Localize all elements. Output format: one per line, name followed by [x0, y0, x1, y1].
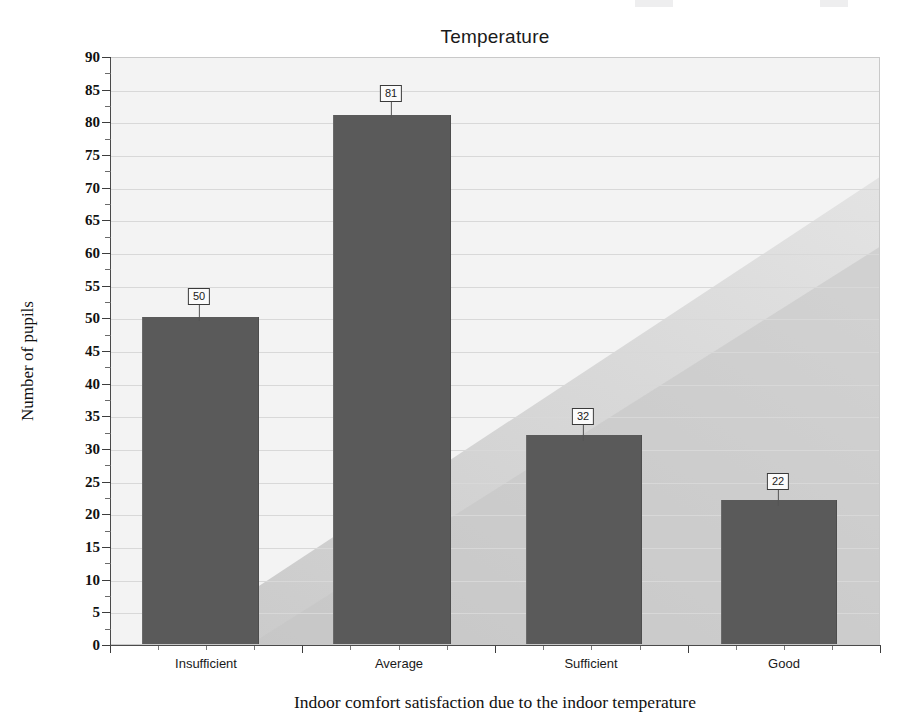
value-label: 32: [572, 408, 594, 425]
y-tick-label: 20: [58, 506, 100, 523]
callout-stem: [199, 305, 200, 321]
scan-artifact: [820, 0, 848, 7]
y-tick-minor: [105, 596, 111, 597]
y-tick: [102, 416, 111, 417]
y-tick-minor: [105, 563, 111, 564]
x-tick: [110, 646, 111, 653]
x-tick-minor: [254, 646, 255, 650]
y-tick-label: 75: [58, 147, 100, 164]
y-tick-minor: [105, 367, 111, 368]
x-tick-minor: [399, 646, 400, 650]
y-tick-minor: [105, 139, 111, 140]
y-tick: [102, 188, 111, 189]
value-label: 22: [767, 473, 789, 490]
y-tick-label: 15: [58, 539, 100, 556]
y-tick-minor: [105, 433, 111, 434]
y-tick: [102, 253, 111, 254]
y-tick-label: 55: [58, 277, 100, 294]
y-tick: [102, 384, 111, 385]
y-tick-minor: [105, 531, 111, 532]
callout-stem: [391, 102, 392, 118]
plot-area: [110, 57, 880, 645]
x-tick-minor: [543, 646, 544, 650]
x-tick-minor: [158, 646, 159, 650]
x-tick-label-sufficient: Sufficient: [564, 656, 617, 671]
y-tick: [102, 547, 111, 548]
y-tick-label: 40: [58, 375, 100, 392]
bar-good[interactable]: [721, 500, 837, 644]
y-tick: [102, 514, 111, 515]
y-tick-minor: [105, 335, 111, 336]
x-tick-label-good: Good: [768, 656, 800, 671]
x-tick-minor: [784, 646, 785, 650]
y-tick-minor: [105, 171, 111, 172]
y-tick-label: 90: [58, 49, 100, 66]
y-tick-label: 65: [58, 212, 100, 229]
value-callout-average: 81: [380, 85, 402, 118]
bar-chart: Temperature: [0, 0, 915, 727]
value-callout-sufficient: 32: [572, 408, 594, 441]
y-tick-minor: [105, 204, 111, 205]
y-tick-minor: [105, 629, 111, 630]
x-axis-title: Indoor comfort satisfaction due to the i…: [110, 692, 880, 713]
y-tick-label: 70: [58, 179, 100, 196]
y-tick-minor: [105, 269, 111, 270]
y-tick-label: 0: [58, 637, 100, 654]
y-tick-label: 35: [58, 408, 100, 425]
x-tick-minor: [640, 646, 641, 650]
y-tick: [102, 122, 111, 123]
x-tick: [495, 646, 496, 653]
y-tick-label: 80: [58, 114, 100, 131]
y-tick: [102, 351, 111, 352]
chart-title: Temperature: [110, 26, 880, 48]
bars-layer: [111, 58, 879, 644]
value-label: 50: [188, 288, 210, 305]
y-tick-minor: [105, 106, 111, 107]
x-tick-minor: [447, 646, 448, 650]
callout-stem: [778, 490, 779, 506]
y-tick: [102, 612, 111, 613]
scan-artifact: [635, 0, 673, 7]
y-tick: [102, 580, 111, 581]
x-tick: [302, 646, 303, 653]
y-tick: [102, 286, 111, 287]
y-tick: [102, 155, 111, 156]
x-tick: [688, 646, 689, 653]
y-tick: [102, 482, 111, 483]
y-tick-label: 25: [58, 473, 100, 490]
y-tick-label: 5: [58, 604, 100, 621]
y-tick-minor: [105, 302, 111, 303]
y-tick: [102, 220, 111, 221]
x-tick-minor: [832, 646, 833, 650]
y-tick-minor: [105, 400, 111, 401]
bar-average[interactable]: [333, 115, 451, 644]
y-tick: [102, 318, 111, 319]
y-axis-title: Number of pupils: [18, 261, 38, 461]
y-tick-minor: [105, 73, 111, 74]
callout-stem: [583, 425, 584, 441]
x-tick-label-insufficient: Insufficient: [175, 656, 237, 671]
bar-insufficient[interactable]: [142, 317, 259, 644]
x-tick-label-average: Average: [375, 656, 423, 671]
y-tick-label: 45: [58, 343, 100, 360]
y-tick: [102, 449, 111, 450]
y-tick-minor: [105, 498, 111, 499]
y-tick: [102, 57, 111, 58]
y-tick-label: 85: [58, 81, 100, 98]
y-tick-label: 10: [58, 571, 100, 588]
x-tick-minor: [736, 646, 737, 650]
x-tick-minor: [206, 646, 207, 650]
y-tick-minor: [105, 237, 111, 238]
y-tick-label: 50: [58, 310, 100, 327]
y-tick-labels: 90 85 80 75 70 65 60 55 50 45 40 35 30 2…: [52, 0, 100, 727]
bar-sufficient[interactable]: [526, 435, 642, 644]
y-tick-label: 60: [58, 245, 100, 262]
y-tick: [102, 90, 111, 91]
y-tick-label: 30: [58, 441, 100, 458]
x-tick: [880, 646, 881, 653]
y-tick-minor: [105, 465, 111, 466]
x-tick-minor: [591, 646, 592, 650]
value-callout-good: 22: [767, 473, 789, 506]
value-label: 81: [380, 85, 402, 102]
x-tick-minor: [350, 646, 351, 650]
